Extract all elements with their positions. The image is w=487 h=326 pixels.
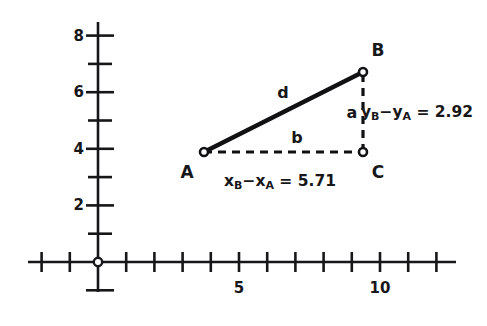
y-axis-ticks: [86, 36, 114, 291]
y-tick-label-6: 6: [74, 85, 84, 100]
plot-canvas: [0, 0, 487, 326]
delta-y-y2: y: [392, 103, 402, 121]
side-label-d: d: [277, 85, 288, 101]
y-tick-label-2: 2: [74, 198, 84, 213]
x-tick-label-10: 10: [370, 281, 391, 296]
delta-y-sub-a: A: [403, 110, 412, 123]
vertex-label-a: A: [180, 164, 193, 181]
delta-x-x1: x: [224, 172, 234, 190]
delta-y-sub-b: B: [371, 110, 379, 123]
vertex-label-c: C: [372, 164, 384, 181]
delta-x-equals: =: [274, 172, 298, 190]
delta-x-x2: x: [255, 172, 265, 190]
y-tick-label-4: 4: [74, 141, 84, 156]
vertex-marker-a: [200, 148, 208, 156]
vertex-label-b: B: [372, 42, 385, 59]
delta-y-value: 2.92: [435, 103, 473, 121]
delta-x-sub-a: A: [265, 179, 274, 192]
delta-x-equation: xB−xA = 5.71: [224, 174, 336, 190]
delta-y-equals: =: [411, 103, 435, 121]
delta-y-y1: y: [361, 103, 371, 121]
vertex-marker-b: [359, 68, 367, 76]
delta-y-minus: −: [379, 103, 392, 121]
y-tick-label-8: 8: [74, 28, 84, 43]
delta-y-equation: yB−yA = 2.92: [361, 105, 473, 121]
side-label-a: a: [347, 105, 358, 121]
x-tick-label-5: 5: [234, 281, 244, 296]
vertex-marker-c: [359, 148, 367, 156]
coordinate-distance-figure: 8 6 4 2 5 10 A B C d b a yB−yA = 2.92 xB…: [0, 0, 487, 326]
delta-x-value: 5.71: [298, 172, 336, 190]
side-label-b: b: [291, 130, 302, 146]
origin-marker: [94, 258, 102, 266]
delta-x-minus: −: [242, 172, 255, 190]
delta-x-sub-b: B: [234, 179, 242, 192]
